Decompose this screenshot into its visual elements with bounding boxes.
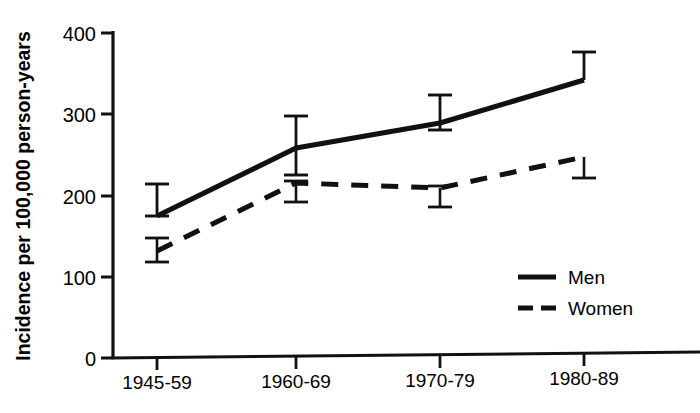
men-line <box>157 80 584 216</box>
x-tick-label-1: 1945-59 <box>122 372 192 393</box>
y-tick-label-200: 200 <box>63 186 96 208</box>
legend-entry-women: Women <box>518 298 633 319</box>
women-line <box>157 157 584 251</box>
x-tick-label-4: 1980-89 <box>549 368 619 389</box>
y-tick-label-300: 300 <box>63 104 96 126</box>
legend-label-women: Women <box>568 298 633 319</box>
x-tick-label-2: 1960-69 <box>261 371 331 392</box>
women-errorbar-3 <box>428 186 452 207</box>
women-errorbar-4 <box>572 157 596 178</box>
x-tick-label-3: 1970-79 <box>405 370 475 391</box>
x-axis-spine <box>112 352 700 358</box>
series-men <box>145 52 596 216</box>
series-women <box>145 157 596 262</box>
y-axis-title: Incidence per 100,000 person-years <box>12 31 34 361</box>
line-chart-plot: 400 300 200 100 0 1945-59 1960-69 1970-7… <box>0 0 700 413</box>
legend-entry-men: Men <box>518 267 605 288</box>
y-tick-label-0: 0 <box>85 348 96 370</box>
chart-legend: Men Women <box>518 267 633 319</box>
y-tick-label-400: 400 <box>63 23 96 45</box>
chart-figure: 400 300 200 100 0 1945-59 1960-69 1970-7… <box>0 0 700 413</box>
men-errorbar-4 <box>572 52 596 80</box>
legend-label-men: Men <box>568 267 605 288</box>
women-errorbar-1 <box>145 238 169 262</box>
y-tick-label-100: 100 <box>63 267 96 289</box>
